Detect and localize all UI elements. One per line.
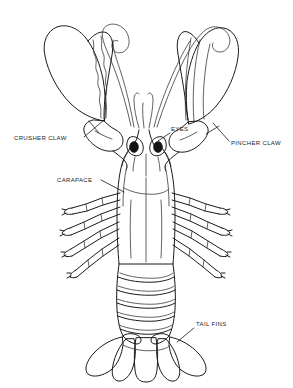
maxilliped-right [158,157,160,171]
left-leg-2 [70,207,120,235]
left-walking-legs [60,193,120,278]
maxilliped-left [133,157,135,171]
left-leg-4 [76,238,119,277]
abdomen-seg-4-shade [117,312,174,317]
leader-carapace [101,180,124,192]
left-leg-2-joints [84,214,102,229]
left-leg-1 [72,193,120,214]
left-leg-3-tip [61,249,72,257]
abdomen-seg-2 [117,290,175,295]
pincher-claw-arm-crease [180,132,197,140]
label-pincher-claw: PINCHER CLAW [231,140,281,146]
right-leg-2 [172,207,222,235]
abdomen-seg-1-shade [120,273,173,278]
right-leg-4 [173,238,216,277]
tail-fan-seam [123,345,170,351]
left-leg-1-joints [86,198,103,211]
crusher-claw-outline [44,26,105,121]
abdomen-seg-3-shade [117,299,175,304]
left-leg-3 [71,222,119,256]
right-leg-1-tip [219,208,230,215]
leader-tail-fins [177,328,194,342]
lobster-diagram: CRUSHER CLAW EYES PINCHER CLAW CARAPACE … [0,0,293,388]
label-crusher-claw: CRUSHER CLAW [14,135,67,141]
antennule-right [148,93,153,128]
label-tail-fins: TAIL FINS [196,321,227,327]
abdomen-seg-5-shade [119,325,172,330]
left-leg-2-tip [60,228,71,236]
label-texts: CRUSHER CLAW EYES PINCHER CLAW CARAPACE … [14,126,281,327]
right-leg-3-tip [220,249,231,257]
antennule-left [134,93,139,128]
leader-lines [84,120,229,342]
label-eyes: EYES [171,126,188,132]
antennae-group [102,24,230,128]
right-leg-1 [172,193,220,214]
carapace-groove-left [130,200,131,258]
carapace-fold-right [165,166,169,206]
crusher-claw-merus [113,151,127,170]
right-leg-3 [173,222,221,256]
left-leg-1-tip [62,208,73,215]
abdomen-group [117,264,176,336]
cervical-groove [124,188,169,194]
right-antenna-inner [154,41,190,127]
right-leg-4-tip [215,270,225,278]
pincher-claw-group [165,28,239,171]
rostrum-right [149,130,154,145]
label-carapace: CARAPACE [57,177,92,183]
abdomen-seg-4 [118,316,174,321]
tail-fan-group [86,334,206,382]
right-leg-2-tip [221,228,232,236]
leader-pincher-claw [213,123,229,141]
crusher-claw-group [44,26,127,170]
carapace-fold-left [123,166,127,206]
crusher-claw-arm-crease [95,131,112,139]
right-leg-1-joints [189,198,206,211]
left-antenna-inner [113,40,134,127]
abdomen-seg-2-shade [118,286,174,291]
abdomen-seg-1 [118,277,174,282]
right-leg-2-joints [190,214,208,229]
uropod-far-left [86,337,123,376]
uropod-far-right [169,337,206,376]
pincher-claw-ridge-3 [203,44,210,119]
antennule-center [143,103,144,128]
left-leg-4-tip [67,270,77,278]
uropod-inner-right [157,339,180,381]
right-walking-legs [172,193,232,278]
abdomen-seg-3 [117,303,175,308]
telson [134,338,157,382]
carapace-groove-right [161,200,162,258]
